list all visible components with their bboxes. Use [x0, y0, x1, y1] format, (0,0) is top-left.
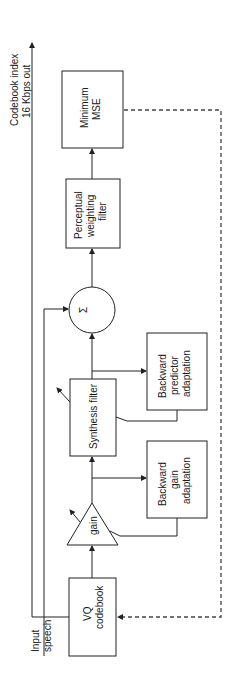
- summer-node: Σ: [69, 287, 115, 333]
- mse-label-line2: MSE: [91, 98, 102, 120]
- sigma-symbol: Σ: [78, 307, 89, 313]
- bg-label-line2: gain: [169, 470, 180, 489]
- bp-label-line1: Backward: [157, 354, 168, 398]
- bg-label-line3: adaptation: [181, 457, 192, 504]
- bp-label-line2: predictor: [169, 355, 180, 395]
- perceptual-weighting-filter-block: Perceptual weighting filter: [66, 179, 120, 248]
- vq-label-line1: VQ: [82, 606, 93, 621]
- feedback-arrowhead: [117, 614, 123, 620]
- bp-label-line3: adaptation: [181, 350, 192, 397]
- synth-label: Synthesis filter: [88, 383, 99, 449]
- gain-adapt-arrow: [70, 510, 80, 522]
- output-label-line2: 16 Kbps out: [21, 64, 32, 118]
- pw-label-line1: Perceptual: [73, 191, 84, 239]
- predictor-adapt-line: [116, 410, 177, 421]
- input-label-line2: speech: [42, 620, 53, 652]
- synthesis-filter-block: Synthesis filter: [70, 379, 116, 456]
- vq-label-line2: codebook: [94, 585, 105, 629]
- backward-gain-block: Backward gain adaptation: [147, 441, 207, 518]
- pw-label-line2: weighting: [85, 195, 96, 238]
- input-speech-label: Input speech: [30, 620, 53, 652]
- vq-codebook-block: VQ codebook: [69, 578, 116, 656]
- backward-predictor-block: Backward predictor adaptation: [147, 333, 207, 410]
- input-speech-line: [44, 309, 68, 656]
- output-label-line1: Codebook index: [9, 54, 20, 126]
- encoder-diagram: Codebook index 16 Kbps out Input speech …: [0, 0, 238, 690]
- synth-adapt-arrow: [57, 388, 70, 402]
- gain-label: gain: [88, 516, 99, 535]
- output-label: Codebook index 16 Kbps out: [9, 54, 32, 126]
- mse-label-line1: Minimum: [79, 87, 90, 128]
- gain-adapt-line: [110, 518, 177, 536]
- input-label-line1: Input: [30, 630, 41, 652]
- bg-label-line1: Backward: [157, 462, 168, 506]
- minimum-mse-block: Minimum MSE: [62, 71, 123, 148]
- pw-label-line3: filter: [97, 201, 108, 221]
- gain-amplifier: gain: [67, 503, 118, 545]
